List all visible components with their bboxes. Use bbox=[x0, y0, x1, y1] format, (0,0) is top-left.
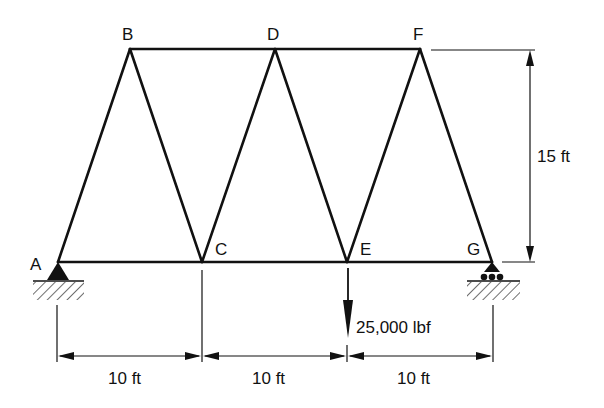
member-EF bbox=[347, 49, 420, 262]
member-CD bbox=[202, 49, 275, 262]
height-dimension bbox=[431, 50, 535, 262]
member-BC bbox=[130, 49, 202, 262]
joint-label-a: A bbox=[30, 255, 42, 274]
member-FG bbox=[420, 49, 492, 262]
joint-label-g: G bbox=[467, 240, 480, 259]
span-dimensions bbox=[57, 270, 493, 362]
joint-label-d: D bbox=[267, 25, 279, 44]
joint-label-e: E bbox=[360, 240, 371, 259]
load-label: 25,000 lbf bbox=[356, 318, 431, 337]
joint-label-c: C bbox=[215, 240, 227, 259]
roller-support-icon bbox=[467, 262, 520, 300]
joint-label-f: F bbox=[413, 25, 423, 44]
truss-members bbox=[58, 49, 492, 262]
member-AB bbox=[58, 49, 130, 262]
member-DE bbox=[275, 49, 347, 262]
span-label-1: 10 ft bbox=[108, 369, 141, 388]
truss-diagram: A B C D E F G 25,000 lbf 15 ft 10 ft 10 … bbox=[0, 0, 604, 408]
joint-label-b: B bbox=[122, 25, 133, 44]
span-label-2: 10 ft bbox=[252, 369, 285, 388]
load-arrow-icon bbox=[343, 268, 353, 338]
span-label-3: 10 ft bbox=[397, 369, 430, 388]
height-dimension-label: 15 ft bbox=[537, 147, 570, 166]
